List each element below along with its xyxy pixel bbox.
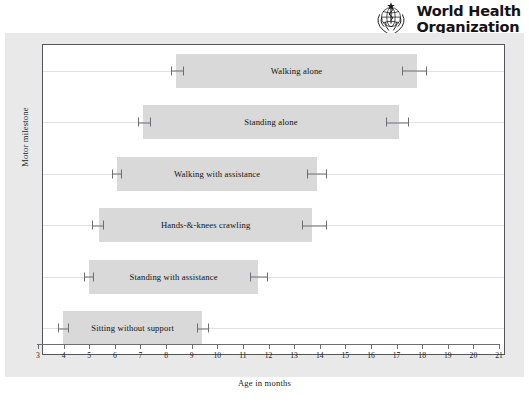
x-axis-tick-label: 17 [393, 351, 401, 360]
x-axis-tick [473, 344, 474, 349]
milestone-bar-label: Walking alone [176, 66, 417, 76]
milestone-bar-label: Sitting without support [63, 323, 201, 333]
x-axis-tick-label: 4 [62, 351, 66, 360]
milestone-bar-label: Standing with assistance [89, 272, 258, 282]
plot-area: Walking aloneStanding aloneWalking with … [42, 44, 505, 355]
x-axis-tick-label: 18 [418, 351, 426, 360]
milestone-row: Walking alone [43, 45, 504, 97]
x-axis-tick-label: 21 [495, 351, 503, 360]
x-axis-tick-label: 3 [36, 351, 40, 360]
x-axis-tick-label: 9 [190, 351, 194, 360]
milestone-row: Sitting without support [43, 303, 504, 355]
x-axis-tick-label: 6 [113, 351, 117, 360]
x-axis-tick-label: 5 [87, 351, 91, 360]
milestone-bar-label: Hands-&-knees crawling [99, 220, 312, 230]
x-axis-tick [294, 344, 295, 349]
x-axis-tick [422, 344, 423, 349]
milestone-row: Standing alone [43, 97, 504, 149]
x-axis-tick [397, 344, 398, 349]
x-axis-tick [140, 344, 141, 349]
chart-panel: Motor milestone Walking aloneStanding al… [5, 33, 524, 377]
x-axis-tick [166, 344, 167, 349]
x-axis-tick-label: 11 [239, 351, 246, 360]
bar-rows: Walking aloneStanding aloneWalking with … [43, 45, 504, 354]
milestone-row: Walking with assistance [43, 148, 504, 200]
x-axis-tick [217, 344, 218, 349]
x-axis-tick-label: 10 [213, 351, 221, 360]
x-axis-tick-label: 7 [139, 351, 143, 360]
x-axis-tick-label: 13 [290, 351, 298, 360]
x-axis-tick-label: 16 [367, 351, 375, 360]
x-axis-tick [243, 344, 244, 349]
figure-root: World Health Organization Motor mileston… [0, 0, 529, 417]
x-axis-tick-label: 15 [342, 351, 350, 360]
x-axis-tick [64, 344, 65, 349]
x-axis: 3456789101112131415161718192021 [37, 344, 500, 346]
x-axis-tick [371, 344, 372, 349]
x-axis-tick [448, 344, 449, 349]
x-axis-title: Age in months [0, 378, 529, 388]
who-wordmark-line1: World Health [416, 3, 521, 19]
x-axis-tick-label: 14 [316, 351, 324, 360]
y-axis-title: Motor milestone [20, 77, 30, 197]
milestone-bar-label: Standing alone [143, 117, 399, 127]
who-wordmark: World Health Organization [416, 3, 521, 35]
x-axis-tick [89, 344, 90, 349]
x-axis-tick [499, 344, 500, 349]
x-axis-tick-label: 12 [265, 351, 273, 360]
x-axis-tick [269, 344, 270, 349]
y-axis-title-holder: Motor milestone [25, 77, 41, 357]
milestone-row: Hands-&-knees crawling [43, 200, 504, 252]
x-axis-tick-label: 20 [470, 351, 478, 360]
x-axis-tick [38, 344, 39, 349]
x-axis-tick [345, 344, 346, 349]
milestone-row: Standing with assistance [43, 251, 504, 303]
x-axis-tick-label: 19 [444, 351, 452, 360]
x-axis-tick-label: 8 [164, 351, 168, 360]
milestone-bar-label: Walking with assistance [117, 169, 317, 179]
x-axis-tick [192, 344, 193, 349]
x-axis-tick [320, 344, 321, 349]
x-axis-tick [115, 344, 116, 349]
